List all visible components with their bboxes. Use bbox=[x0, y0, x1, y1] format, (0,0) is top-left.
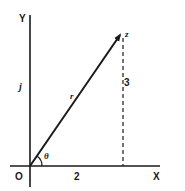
origin-label: O bbox=[15, 171, 23, 182]
y-axis-label: Y bbox=[19, 13, 26, 24]
imaginary-unit-label: j bbox=[17, 81, 22, 92]
x-axis-label: X bbox=[153, 171, 160, 182]
angle-label: θ bbox=[44, 151, 49, 161]
vector-r bbox=[30, 35, 120, 166]
argand-diagram: Y X O j r z θ 2 3 bbox=[0, 0, 185, 191]
tip-label: z bbox=[124, 29, 129, 39]
vector-label: r bbox=[70, 91, 74, 101]
imaginary-component-label: 3 bbox=[124, 77, 130, 88]
real-component-label: 2 bbox=[74, 171, 80, 182]
angle-arc bbox=[37, 156, 42, 166]
